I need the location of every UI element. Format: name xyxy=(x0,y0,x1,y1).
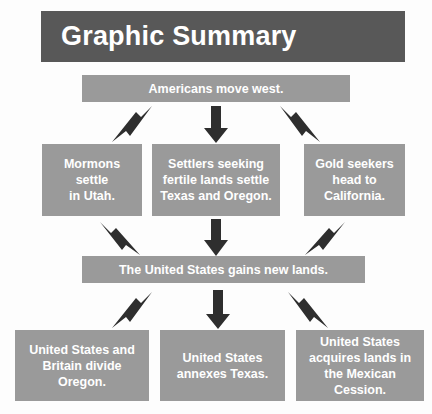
text-line: in Utah. xyxy=(69,189,115,203)
arrow-down-left-icon xyxy=(112,292,152,328)
text-line: United States xyxy=(320,335,400,349)
page-title: Graphic Summary xyxy=(41,23,297,50)
text-line: California. xyxy=(324,189,385,203)
flow-node-outcome-oregon-text: United States and Britain divide Oregon. xyxy=(29,342,135,390)
flow-node-outcome-texas: United States annexes Texas. xyxy=(160,330,285,401)
arrow-down-right-icon xyxy=(100,222,140,255)
flow-node-outcome-mexican-cession: United States acquires lands in the Mexi… xyxy=(296,330,424,401)
text-line: Oregon. xyxy=(58,375,106,389)
text-line: Cession. xyxy=(334,383,386,397)
text-line: United States and xyxy=(29,343,135,357)
flow-node-effect-mormons-text: Mormons settle in Utah. xyxy=(64,156,120,204)
flow-node-outcome-oregon: United States and Britain divide Oregon. xyxy=(15,330,149,401)
text-line: Settlers seeking xyxy=(168,157,264,171)
arrow-down-icon xyxy=(204,219,228,256)
arrow-down-right-icon xyxy=(280,106,320,142)
flow-node-cause: Americans move west. xyxy=(82,75,350,102)
graphic-summary-diagram: Graphic Summary Americans move west. Mor… xyxy=(0,0,432,414)
text-line: fertile lands settle xyxy=(163,173,269,187)
page-title-banner: Graphic Summary xyxy=(41,11,405,62)
text-line: annexes Texas. xyxy=(177,367,269,381)
flow-node-effect-mormons: Mormons settle in Utah. xyxy=(42,144,142,216)
flow-node-effect-gold-seekers: Gold seekers head to California. xyxy=(304,144,405,216)
text-line: Britain divide xyxy=(42,359,121,373)
flow-node-outcome-texas-text: United States annexes Texas. xyxy=(177,350,269,382)
text-line: Texas and Oregon. xyxy=(160,189,272,203)
arrow-down-right-icon xyxy=(288,292,328,328)
flow-node-middle-result: The United States gains new lands. xyxy=(82,256,365,283)
text-line: settle xyxy=(76,173,109,187)
flow-node-outcome-mexican-cession-text: United States acquires lands in the Mexi… xyxy=(309,334,411,398)
text-line: acquires lands in xyxy=(309,351,411,365)
text-line: United States xyxy=(183,351,263,365)
text-line: the Mexican xyxy=(324,367,396,381)
text-line: Mormons xyxy=(64,157,120,171)
arrow-down-icon xyxy=(206,290,230,329)
arrow-down-left-icon xyxy=(112,106,152,142)
arrow-down-left-icon xyxy=(305,222,345,255)
flow-node-effect-gold-seekers-text: Gold seekers head to California. xyxy=(315,156,394,204)
flow-node-effect-settlers-text: Settlers seeking fertile lands settle Te… xyxy=(160,156,272,204)
arrow-down-icon xyxy=(204,106,228,143)
text-line: Gold seekers xyxy=(315,157,394,171)
text-line: head to xyxy=(332,173,376,187)
flow-node-effect-settlers: Settlers seeking fertile lands settle Te… xyxy=(152,144,280,216)
